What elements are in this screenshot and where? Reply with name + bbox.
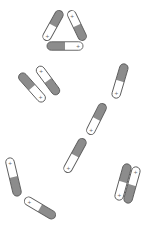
battery-icon: +: [47, 42, 83, 51]
plus-terminal-icon: +: [134, 169, 138, 175]
plus-terminal-icon: +: [76, 43, 80, 49]
plus-terminal-icon: +: [114, 90, 118, 96]
plus-terminal-icon: +: [89, 127, 93, 133]
battery-icon: +: [85, 102, 108, 136]
battery-icon: +: [41, 9, 64, 42]
plus-terminal-icon: +: [66, 165, 70, 171]
battery-group-triangle: +++: [41, 9, 88, 50]
battery-icon: +: [5, 157, 22, 197]
plus-terminal-icon: +: [70, 13, 74, 19]
battery-group-bent-pair: ++: [5, 157, 57, 221]
battery-group-parallel-pair-left: ++: [17, 64, 62, 103]
battery-icon: +: [62, 137, 87, 174]
battery-icon: +: [23, 195, 57, 220]
plus-terminal-icon: +: [39, 94, 43, 100]
plus-terminal-icon: +: [45, 33, 49, 39]
battery-icon: +: [66, 9, 88, 42]
battery-group-series-chain: +++: [62, 63, 129, 174]
plus-terminal-icon: +: [39, 68, 43, 74]
battery-group-parallel-pair-right: ++: [114, 163, 141, 204]
plus-terminal-icon: +: [27, 199, 31, 205]
battery-icon: +: [111, 63, 129, 99]
plus-terminal-icon: +: [8, 160, 12, 166]
battery-charged-half: [47, 42, 65, 51]
battery-diagram: ++++++++++++: [0, 0, 156, 225]
plus-terminal-icon: +: [117, 192, 121, 198]
